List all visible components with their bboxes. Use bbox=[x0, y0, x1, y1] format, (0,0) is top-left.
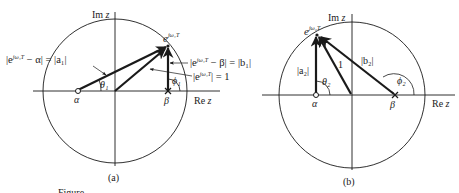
panel-b: Im z Re z ejω₂T |a₂| |b₂| 1 θ₂ ϕ₂ α β (b… bbox=[262, 12, 455, 188]
leader-unit bbox=[150, 69, 192, 76]
figure-canvas: Im z Re z ejω₁T |ejω₁T − α| = |a₁| |ejω₁… bbox=[0, 0, 459, 193]
b1-magnitude-label: |ejω₁T − β| = |b₁| bbox=[190, 57, 251, 68]
beta-label-b: β bbox=[389, 99, 395, 110]
leader-a1 bbox=[93, 66, 106, 75]
point-e-marker bbox=[315, 33, 318, 36]
e-point-label-a: ejω₁T bbox=[163, 32, 180, 44]
theta1-label: θ₁ bbox=[100, 79, 108, 90]
a2-magnitude-label: |a₂| bbox=[297, 65, 309, 76]
vector-alpha-to-e bbox=[78, 47, 166, 90]
beta-label-a: β bbox=[163, 95, 169, 106]
unit-magnitude-label: |ejω₁T| = 1 bbox=[193, 71, 230, 82]
b2-magnitude-label: |b₂| bbox=[361, 55, 374, 66]
phi2-label: ϕ₂ bbox=[397, 75, 406, 86]
zero-alpha-marker bbox=[76, 89, 81, 94]
imag-axis-label-a: Im z bbox=[92, 9, 110, 20]
zero-alpha-marker bbox=[314, 93, 319, 98]
unit-length-label: 1 bbox=[338, 59, 343, 70]
real-axis-label-b: Re z bbox=[432, 98, 450, 109]
panel-b-label: (b) bbox=[343, 176, 355, 188]
imag-axis-label-b: Im z bbox=[328, 12, 346, 23]
phi1-label: ϕ₁ bbox=[172, 75, 181, 86]
a1-magnitude-label: |ejω₁T − α| = |a₁| bbox=[6, 54, 67, 65]
real-axis-label-a: Re z bbox=[194, 95, 212, 106]
panel-a-label: (a) bbox=[108, 172, 119, 184]
vector-beta-to-e bbox=[321, 37, 394, 94]
panel-a: Im z Re z ejω₁T |ejω₁T − α| = |a₁| |ejω₁… bbox=[6, 9, 251, 184]
alpha-label-b: α bbox=[312, 98, 318, 109]
caption-fragment: Figure bbox=[58, 187, 85, 193]
alpha-label-a: α bbox=[74, 94, 80, 105]
theta2-label: θ₂ bbox=[322, 76, 331, 87]
point-e-marker bbox=[166, 44, 169, 47]
